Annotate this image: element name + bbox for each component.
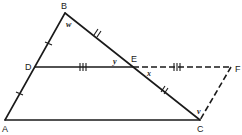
angle-w: w	[66, 20, 72, 29]
segment-fc	[200, 67, 231, 120]
angle-y: y	[112, 57, 117, 66]
angle-v: v	[197, 107, 201, 116]
label-e: E	[131, 54, 137, 64]
label-b: B	[61, 1, 67, 11]
label-c: C	[197, 124, 204, 134]
angle-x: x	[146, 69, 151, 78]
label-a: A	[2, 124, 8, 134]
label-f: F	[235, 64, 241, 74]
label-d: D	[25, 62, 32, 72]
geometry-diagram: B D A E F C w y x v	[0, 0, 242, 135]
